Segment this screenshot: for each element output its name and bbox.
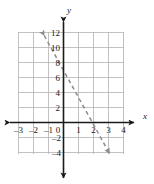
x-axis-label: x <box>142 111 147 121</box>
y-tick-label: 12 <box>51 28 60 38</box>
x-tick-label: 1 <box>76 125 81 135</box>
grid-vertical-lines <box>19 32 124 154</box>
y-tick-label: 2 <box>56 103 61 113</box>
x-tick-label: –3 <box>13 125 24 135</box>
y-tick-label: 8 <box>56 58 61 68</box>
y-axis-label: y <box>66 5 71 15</box>
y-tick-label: –4 <box>51 148 62 158</box>
y-tick-label: 10 <box>51 43 61 53</box>
x-tick-label: 2 <box>91 125 96 135</box>
x-tick-label: 4 <box>121 125 126 135</box>
y-tick-label: 4 <box>56 88 61 98</box>
y-tick-label: 6 <box>56 73 61 83</box>
coordinate-plane-figure: y x 12 10 8 6 4 2 –2 –4 –3 –2 –1 0 1 2 3… <box>0 0 154 184</box>
graph-canvas: y x 12 10 8 6 4 2 –2 –4 –3 –2 –1 0 1 2 3… <box>0 0 154 184</box>
x-tick-label: –1 <box>43 125 53 135</box>
x-tick-label-origin: 0 <box>56 125 61 135</box>
x-tick-labels: –3 –2 –1 0 1 2 3 4 <box>13 125 126 135</box>
grid-lines <box>19 32 124 154</box>
y-tick-labels: 12 10 8 6 4 2 –2 –4 <box>51 28 62 158</box>
x-tick-label: 3 <box>106 125 111 135</box>
x-tick-label: –2 <box>28 125 38 135</box>
